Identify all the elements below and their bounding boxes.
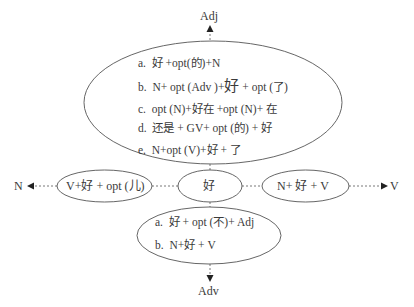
item-text: 好 +opt(的)+N bbox=[152, 57, 221, 69]
arrow-down-icon bbox=[207, 275, 214, 282]
left-node-label: V+好 + opt (儿) bbox=[66, 179, 145, 193]
item-text: 好 + opt (不)+ Adj bbox=[169, 216, 254, 228]
item-text-big: 好 bbox=[224, 78, 239, 94]
bottom-item-a: a. 好 + opt (不)+ Adj bbox=[155, 215, 254, 229]
item-marker: a. bbox=[155, 216, 163, 228]
top-item-a: a. 好 +opt(的)+N bbox=[138, 56, 220, 70]
top-item-e: e. N+opt (V)+好 + 了 bbox=[138, 143, 241, 157]
top-item-c: c. opt (N)+好在 +opt (N)+ 在 bbox=[138, 102, 277, 116]
arrow-up-icon bbox=[207, 25, 214, 32]
item-marker: d. bbox=[138, 122, 147, 134]
top-item-d: d. 还是 + GV+ opt (的) + 好 bbox=[138, 121, 272, 135]
top-item-b: b. N+ opt (Adv )+好 + opt (了) bbox=[138, 79, 288, 94]
item-marker: b. bbox=[138, 81, 147, 93]
item-text: N+opt (V)+好 + 了 bbox=[152, 144, 241, 156]
item-marker: a. bbox=[138, 57, 146, 69]
bottom-item-b: b. N+好 + V bbox=[155, 238, 216, 252]
item-text: 还是 + GV+ opt (的) + 好 bbox=[152, 122, 272, 134]
item-marker: b. bbox=[155, 239, 164, 251]
axis-label-adj: Adj bbox=[200, 9, 218, 23]
center-node-label: 好 bbox=[203, 179, 215, 193]
item-text: opt (N)+好在 +opt (N)+ 在 bbox=[152, 103, 277, 115]
item-text: N+好 + V bbox=[169, 239, 215, 251]
item-text-post: + opt (了) bbox=[239, 81, 287, 93]
arrow-left-icon bbox=[27, 183, 34, 190]
arrow-right-icon bbox=[381, 183, 388, 190]
item-marker: e. bbox=[138, 144, 146, 156]
right-node-label: N+ 好 + V bbox=[277, 179, 329, 193]
axis-label-adv: Adv bbox=[198, 284, 219, 298]
axis-label-n: N bbox=[14, 179, 23, 193]
axis-label-v: V bbox=[390, 179, 399, 193]
item-marker: c. bbox=[138, 103, 146, 115]
item-text-pre: N+ opt (Adv )+ bbox=[152, 81, 224, 93]
